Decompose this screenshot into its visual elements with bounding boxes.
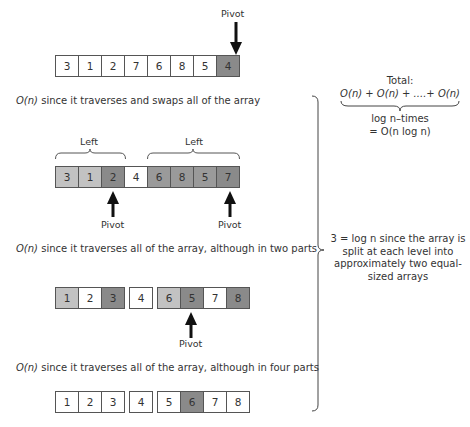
array-cell-pivot: 5 [180, 287, 204, 309]
array-level-2: 3 1 2 4 6 8 5 7 [55, 166, 240, 188]
caption-level-2: O(n) since it traverses all of the array… [16, 243, 317, 254]
array-cell: 1 [78, 166, 102, 188]
caption-text: since it traverses all of the array, alt… [38, 362, 319, 373]
array-cell: 2 [101, 55, 125, 77]
array-cell: 1 [55, 287, 79, 309]
array-cell: 5 [193, 166, 217, 188]
array-cell: 1 [78, 55, 102, 77]
levels-note-line: split at each level into [328, 246, 468, 259]
array-cell: 7 [203, 287, 227, 309]
array-cell: 3 [55, 166, 79, 188]
array-cell: 7 [203, 391, 227, 413]
array-level-4: 1 2 3 4 5 6 7 8 [55, 391, 250, 413]
array-cell-pivot: 4 [216, 55, 240, 77]
array-cell: 3 [55, 55, 79, 77]
array-cell: 3 [101, 287, 125, 309]
array-cell: 2 [78, 391, 102, 413]
left-brace-2 [147, 149, 241, 159]
array-cell: 6 [157, 287, 181, 309]
levels-note-line: approximately two equal- [328, 258, 468, 271]
left-brace-1 [55, 149, 127, 159]
array-cell: 5 [193, 55, 217, 77]
caption-text: since it traverses all of the array, alt… [38, 243, 317, 254]
levels-note-line: 3 = log n since the array is [328, 233, 468, 246]
array-cell-pivot: 7 [216, 166, 240, 188]
pivot-arrow-top [229, 22, 243, 56]
total-brace [340, 100, 460, 112]
left-label-2: Left [185, 136, 203, 147]
array-cell: 8 [170, 166, 194, 188]
pivot-arrow-left [106, 191, 120, 217]
array-cell: 2 [78, 287, 102, 309]
array-cell: 6 [147, 166, 171, 188]
total-sum: O(n) + O(n) + ....+ O(n) [335, 88, 465, 101]
levels-note: 3 = log n since the array is split at ea… [328, 233, 468, 283]
total-times: log n–times [335, 113, 465, 126]
total-result: = O(n log n) [335, 126, 465, 139]
array-cell: 4 [129, 391, 153, 413]
array-cell: 8 [170, 55, 194, 77]
array-level-3: 1 2 3 4 6 5 7 8 [55, 287, 250, 309]
array-cell-pivot: 2 [101, 166, 125, 188]
array-cell: 5 [157, 391, 181, 413]
big-o-notation: O(n) [16, 243, 38, 254]
pivot-arrow-level-3 [184, 312, 198, 338]
caption-text: since it traverses and swaps all of the … [38, 95, 260, 106]
pivot-label-level-3: Pivot [179, 338, 202, 349]
array-cell-sorted: 4 [124, 166, 148, 188]
big-o-notation: O(n) [16, 362, 38, 373]
array-cell: 1 [55, 391, 79, 413]
caption-level-3: O(n) since it traverses all of the array… [16, 362, 319, 373]
caption-level-1: O(n) since it traverses and swaps all of… [16, 95, 260, 106]
left-label-1: Left [80, 136, 98, 147]
array-cell: 8 [226, 287, 250, 309]
array-cell-pivot: 6 [180, 391, 204, 413]
total-heading: Total: [335, 75, 465, 88]
pivot-label-top: Pivot [221, 8, 244, 19]
array-cell: 7 [124, 55, 148, 77]
pivot-arrow-right [223, 191, 237, 217]
array-cell: 3 [101, 391, 125, 413]
array-cell: 8 [226, 391, 250, 413]
levels-note-line: sized arrays [328, 271, 468, 284]
pivot-label-left: Pivot [101, 219, 124, 230]
big-o-notation: O(n) [16, 95, 38, 106]
pivot-label-right: Pivot [218, 219, 241, 230]
array-cell-sorted: 4 [129, 287, 153, 309]
array-level-1: 3 1 2 7 6 8 5 4 [55, 55, 240, 77]
array-cell: 6 [147, 55, 171, 77]
